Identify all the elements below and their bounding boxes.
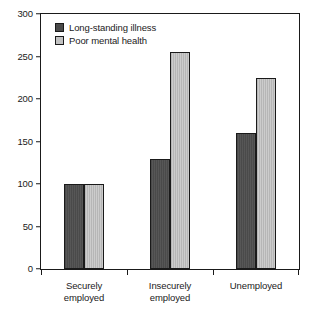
legend-swatch-icon — [55, 36, 64, 45]
y-axis-tick: 0 — [28, 264, 41, 274]
x-axis-tick-mark — [41, 269, 42, 275]
y-axis-tick-mark — [36, 226, 41, 227]
legend-item: Poor mental health — [55, 35, 156, 46]
bar — [150, 159, 170, 270]
y-axis-tick-mark — [36, 141, 41, 142]
bar — [236, 133, 256, 269]
bar — [256, 78, 276, 269]
x-axis-category-label: Unemployed — [230, 280, 282, 292]
legend-item: Long-standing illness — [55, 22, 156, 33]
y-axis-tick-label: 150 — [17, 137, 36, 147]
y-axis-tick-label: 50 — [23, 222, 36, 232]
bar — [64, 184, 84, 269]
x-axis-category-label: Securely employed — [64, 280, 104, 303]
x-axis-tick-mark — [213, 269, 214, 275]
bar-chart: 050100150200250300 Securely employedInse… — [0, 0, 314, 311]
y-axis-tick: 50 — [23, 222, 41, 232]
y-axis-tick-label: 200 — [17, 94, 36, 104]
y-axis-tick-mark — [36, 13, 41, 14]
bar — [84, 184, 104, 269]
y-axis-tick: 250 — [17, 52, 41, 62]
y-axis-tick-label: 300 — [17, 9, 36, 19]
chart-legend: Long-standing illnessPoor mental health — [55, 22, 156, 46]
y-axis-tick-label: 250 — [17, 52, 36, 62]
legend-label: Long-standing illness — [69, 22, 156, 33]
y-axis-tick: 200 — [17, 94, 41, 104]
y-axis-tick-mark — [36, 56, 41, 57]
y-axis-tick: 150 — [17, 137, 41, 147]
x-axis-category-label: Insecurely employed — [149, 280, 191, 303]
y-axis-tick-mark — [36, 183, 41, 184]
y-axis-tick: 100 — [17, 179, 41, 189]
legend-swatch-icon — [55, 23, 64, 32]
x-axis-tick-mark — [127, 269, 128, 275]
x-axis-tick-mark — [298, 269, 299, 275]
y-axis-tick-mark — [36, 98, 41, 99]
y-axis-tick-label: 100 — [17, 179, 36, 189]
plot-area: 050100150200250300 Securely employedInse… — [40, 13, 300, 270]
legend-label: Poor mental health — [69, 35, 147, 46]
y-axis-tick: 300 — [17, 9, 41, 19]
bar — [170, 52, 190, 269]
y-axis-tick-label: 0 — [28, 264, 36, 274]
